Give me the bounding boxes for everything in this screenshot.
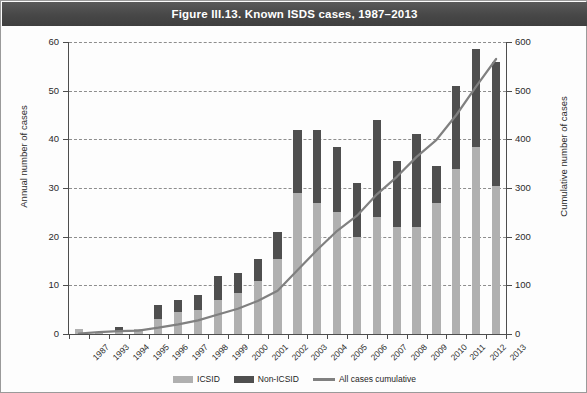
figure-container: Figure III.13. Known ISDS cases, 1987–20… [0, 0, 587, 393]
y-axis-left-label-50: 50 [33, 85, 59, 96]
x-axis-label-2006: 2006 [369, 342, 389, 362]
x-axis-label-2013: 2013 [508, 342, 528, 362]
y-axis-left-label-10: 10 [33, 279, 59, 290]
y-axis-right-label-400: 400 [515, 133, 541, 144]
x-axis-label-2001: 2001 [269, 342, 289, 362]
all-cases-cumulative-line [79, 59, 496, 334]
y-axis-left-tick-30 [63, 188, 68, 189]
y-axis-left-tick-60 [63, 42, 68, 43]
cumulative-line-svg [69, 42, 506, 334]
y-axis-right-tick-400 [507, 139, 512, 140]
y-axis-left-tick-40 [63, 139, 68, 140]
y-axis-left-tick-50 [63, 91, 68, 92]
x-axis-label-2004: 2004 [329, 342, 349, 362]
y-axis-right-tick-100 [507, 285, 512, 286]
x-axis-label-2003: 2003 [309, 342, 329, 362]
legend-item-non-icsid[interactable]: Non-ICSID [234, 374, 299, 384]
legend-label-all-cases-cumulative: All cases cumulative [339, 374, 416, 384]
y-axis-left-tick-10 [63, 285, 68, 286]
x-axis-label-1997: 1997 [190, 342, 210, 362]
y-axis-right-tick-0 [507, 334, 512, 335]
y-axis-left-label-60: 60 [33, 36, 59, 47]
y-axis-left-label-40: 40 [33, 133, 59, 144]
legend-label-icsid: ICSID [197, 374, 220, 384]
y-axis-right-tick-300 [507, 188, 512, 189]
x-axis-label-2000: 2000 [249, 342, 269, 362]
y-axis-right-label-300: 300 [515, 182, 541, 193]
y-axis-right-tick-200 [507, 237, 512, 238]
x-axis-label-2005: 2005 [349, 342, 369, 362]
x-axis-label-2002: 2002 [289, 342, 309, 362]
x-axis-label-2007: 2007 [388, 342, 408, 362]
x-axis-label-2008: 2008 [408, 342, 428, 362]
y-axis-left-label-20: 20 [33, 231, 59, 242]
figure-title: Figure III.13. Known ISDS cases, 1987–20… [171, 8, 417, 20]
x-axis-label-1994: 1994 [130, 342, 150, 362]
y-axis-right-title: Cumulative number of cases [558, 47, 569, 267]
x-axis-label-1993: 1993 [110, 342, 130, 362]
x-axis-label-2011: 2011 [468, 342, 488, 362]
chart-legend: ICSID Non-ICSID All cases cumulative [1, 371, 587, 387]
legend-swatch-non-icsid [234, 376, 254, 383]
y-axis-left-tick-0 [63, 334, 68, 335]
plot-area [69, 42, 506, 334]
legend-swatch-icsid [173, 376, 193, 383]
x-axis-label-2012: 2012 [488, 342, 508, 362]
x-axis-label-1995: 1995 [150, 342, 170, 362]
x-axis-label-1987: 1987 [90, 342, 110, 362]
x-axis-label-1999: 1999 [230, 342, 250, 362]
y-axis-right-label-200: 200 [515, 231, 541, 242]
x-axis-label-1998: 1998 [210, 342, 230, 362]
legend-item-all-cases-cumulative[interactable]: All cases cumulative [313, 374, 416, 384]
legend-item-icsid[interactable]: ICSID [173, 374, 220, 384]
y-axis-left-title: Annual number of cases [18, 47, 29, 267]
y-axis-right-tick-500 [507, 91, 512, 92]
y-axis-right-label-500: 500 [515, 85, 541, 96]
legend-swatch-cumulative-line [313, 378, 335, 381]
y-axis-right-tick-600 [507, 42, 512, 43]
legend-label-non-icsid: Non-ICSID [258, 374, 299, 384]
x-axis-label-1996: 1996 [170, 342, 190, 362]
y-axis-right-label-100: 100 [515, 279, 541, 290]
x-axis-label-2009: 2009 [428, 342, 448, 362]
y-axis-left-label-30: 30 [33, 182, 59, 193]
y-axis-left-tick-20 [63, 237, 68, 238]
x-axis-label-2010: 2010 [448, 342, 468, 362]
figure-title-bar: Figure III.13. Known ISDS cases, 1987–20… [2, 2, 587, 26]
y-axis-right-label-600: 600 [515, 36, 541, 47]
